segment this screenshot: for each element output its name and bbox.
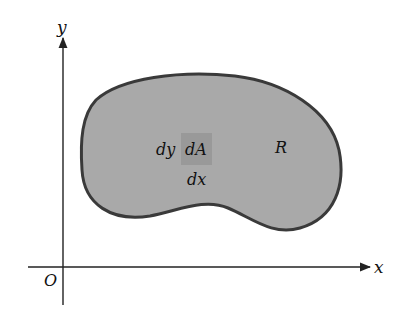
region-label: R [274,138,287,157]
dy-label: dy [156,140,176,159]
y-axis-label: y [56,17,67,37]
dx-label: dx [187,170,206,189]
double-integral-region-diagram: y x O R dA dy dx [0,0,411,331]
origin-label: O [44,271,57,290]
area-element-label: dA [185,140,207,159]
x-axis-label: x [374,257,384,277]
